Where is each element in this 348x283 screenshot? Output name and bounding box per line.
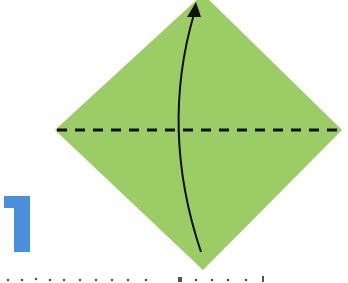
step-number-1 <box>2 196 32 252</box>
origami-step-diagram <box>0 0 348 283</box>
diagram-svg <box>0 0 348 283</box>
paper-square <box>55 0 342 270</box>
cropped-caption-text <box>0 274 348 283</box>
